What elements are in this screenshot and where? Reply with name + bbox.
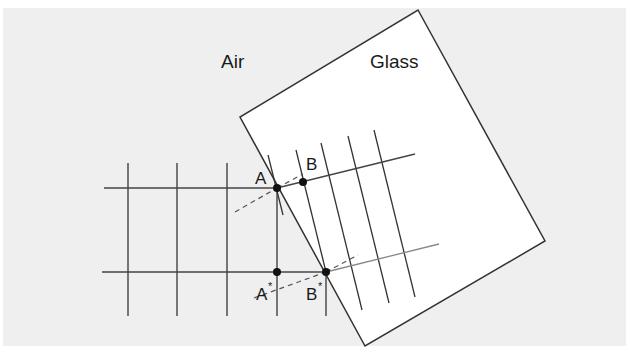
point-a-label: A xyxy=(255,169,267,188)
point-a xyxy=(273,184,281,192)
point-b-star xyxy=(322,268,330,276)
point-b-star-label: B xyxy=(306,285,317,304)
refraction-diagram: Air Glass A B A xyxy=(0,0,630,356)
point-a-star-superscript: * xyxy=(268,280,273,292)
glass-label: Glass xyxy=(370,51,419,72)
point-b-star-superscript: * xyxy=(318,280,323,292)
point-b xyxy=(299,178,307,186)
point-a-star-label: A xyxy=(256,285,268,304)
point-b-label: B xyxy=(306,155,317,174)
point-a-star xyxy=(273,268,281,276)
air-label: Air xyxy=(221,51,245,72)
